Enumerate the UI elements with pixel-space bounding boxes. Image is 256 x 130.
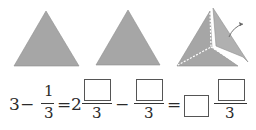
equals-sign: =: [57, 96, 71, 113]
arrow-icon: [229, 24, 243, 37]
whole-number: 3: [9, 96, 20, 113]
fraction-1-denominator: 3: [44, 106, 54, 121]
triangle-1: [14, 11, 79, 66]
answer-box-whole[interactable]: [184, 95, 209, 117]
answer-box-2[interactable]: [136, 79, 163, 101]
triangles-figure: [0, 0, 256, 75]
fraction-2-denominator: 3: [92, 106, 102, 121]
minus-sign: −: [20, 96, 34, 113]
fraction-3-denominator: 3: [144, 106, 154, 121]
triangle-2: [96, 10, 160, 65]
equals-sign-2: =: [167, 96, 181, 113]
triangle-3-cut: [177, 8, 248, 66]
answer-box-3[interactable]: [218, 79, 245, 101]
answer-box-1[interactable]: [84, 79, 111, 101]
mixed-whole: 2: [71, 96, 82, 113]
fraction-4-denominator: 3: [225, 106, 235, 121]
fraction-1-numerator: 1: [44, 84, 54, 99]
minus-sign-2: −: [115, 96, 129, 113]
